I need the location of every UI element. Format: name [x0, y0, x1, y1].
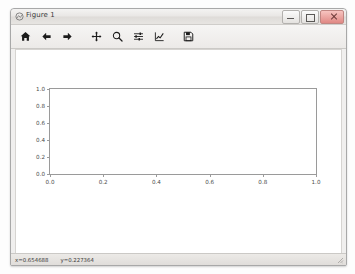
x-tick-mark	[103, 174, 104, 177]
subplot-config-icon[interactable]	[128, 26, 149, 47]
y-tick-mark	[47, 89, 50, 90]
x-tick-label: 0.2	[99, 179, 108, 185]
close-button[interactable]	[320, 10, 344, 24]
y-tick-mark	[47, 123, 50, 124]
edit-curve-icon[interactable]	[149, 26, 170, 47]
maximize-button[interactable]	[301, 10, 319, 24]
toolbar-separator-1	[78, 36, 86, 37]
status-bar: x=0.654688 y=0.227364	[11, 253, 346, 265]
x-tick-mark	[156, 174, 157, 177]
x-tick-mark	[316, 174, 317, 177]
zoom-magnifier-icon[interactable]	[107, 26, 128, 47]
window-title: Figure 1	[26, 11, 55, 19]
window-controls	[282, 10, 344, 24]
x-tick-label: 0.6	[205, 179, 214, 185]
figure-canvas[interactable]: 0.00.20.40.60.81.00.00.20.40.60.81.0	[15, 49, 342, 256]
figure-window: Figure 1	[10, 8, 347, 266]
plot-axes[interactable]: 0.00.20.40.60.81.00.00.20.40.60.81.0	[49, 88, 317, 175]
pan-move-icon[interactable]	[86, 26, 107, 47]
window-titlebar[interactable]: Figure 1	[11, 9, 346, 25]
navigation-toolbar	[11, 25, 346, 49]
resize-grip-icon[interactable]	[336, 256, 344, 264]
status-y-coordinate: y=0.227364	[60, 257, 93, 263]
x-tick-label: 0.0	[46, 179, 55, 185]
minimize-button[interactable]	[282, 10, 300, 24]
y-tick-label: 0.8	[36, 103, 45, 109]
x-tick-mark	[210, 174, 211, 177]
toolbar-separator-2	[170, 36, 178, 37]
x-tick-label: 0.4	[152, 179, 161, 185]
x-tick-mark	[263, 174, 264, 177]
y-tick-label: 0.6	[36, 120, 45, 126]
back-arrow-icon[interactable]	[36, 26, 57, 47]
y-tick-label: 0.2	[36, 154, 45, 160]
screen: Figure 1	[0, 0, 355, 274]
y-tick-label: 0.0	[36, 171, 45, 177]
status-x-coordinate: x=0.654688	[15, 257, 48, 263]
y-tick-mark	[47, 140, 50, 141]
forward-arrow-icon[interactable]	[57, 26, 78, 47]
y-tick-label: 1.0	[36, 86, 45, 92]
save-floppy-icon[interactable]	[178, 26, 199, 47]
x-tick-mark	[50, 174, 51, 177]
home-icon[interactable]	[15, 26, 36, 47]
x-tick-label: 1.0	[312, 179, 321, 185]
y-tick-mark	[47, 106, 50, 107]
y-tick-mark	[47, 157, 50, 158]
figure-window-icon	[15, 12, 24, 21]
y-tick-label: 0.4	[36, 137, 45, 143]
x-tick-label: 0.8	[258, 179, 267, 185]
